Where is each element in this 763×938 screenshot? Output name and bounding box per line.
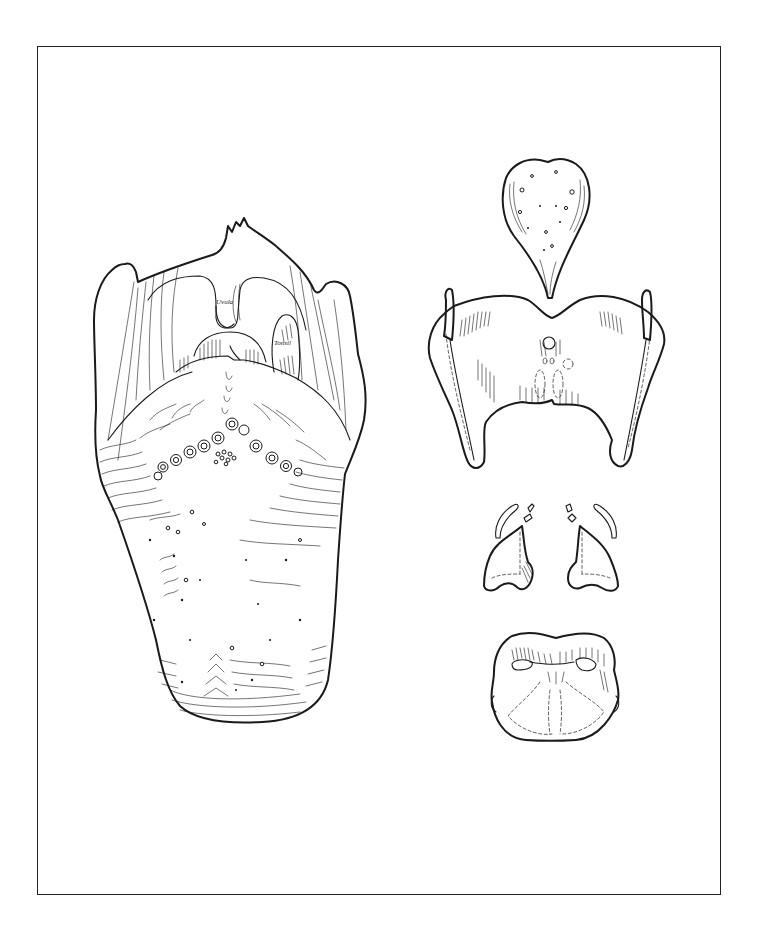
fungiform-papillae xyxy=(149,510,302,691)
median-sulcus xyxy=(222,372,232,414)
circumvallate-papillae xyxy=(154,418,302,480)
arytenoid-cartilages-figure xyxy=(484,504,618,591)
epiglottis-outline xyxy=(503,159,590,298)
anatomical-illustration xyxy=(0,0,763,938)
thyroid-cartilage-figure xyxy=(429,289,665,468)
tongue-striations-left xyxy=(100,440,180,596)
tonsil-label: Tonsil xyxy=(274,340,291,347)
tongue-outline xyxy=(94,218,366,722)
cricoid-outline xyxy=(491,633,618,741)
thyroid-outline xyxy=(429,296,665,468)
epiglottis-figure xyxy=(503,159,590,298)
tongue-tip-striations xyxy=(158,646,326,716)
tongue-striations-right xyxy=(230,460,344,690)
uvula-label: Uvula xyxy=(216,299,233,306)
left-arytenoid-outline xyxy=(484,526,533,591)
cricoid-cartilage-figure xyxy=(491,633,619,741)
dorsum-boundary xyxy=(108,372,350,440)
right-arytenoid-outline xyxy=(568,526,618,591)
tongue-figure xyxy=(94,218,366,722)
